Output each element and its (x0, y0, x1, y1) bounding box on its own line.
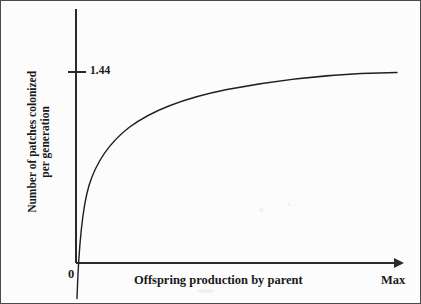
x-axis-title: Offspring production by parent (134, 273, 303, 287)
y-axis-title-line-2: per generation (39, 106, 51, 178)
scan-speck (197, 289, 215, 293)
scan-speck (287, 203, 291, 206)
x-axis-max-label: Max (381, 273, 405, 287)
scan-speck (259, 208, 264, 212)
y-axis-title: Number of patches colonizedper generatio… (26, 42, 52, 242)
y-axis-title-line-1: Number of patches colonized (26, 71, 38, 213)
chart-plot-area (1, 1, 421, 304)
figure-container: Number of patches colonizedper generatio… (0, 0, 421, 304)
x-axis-arrow-icon (394, 258, 404, 268)
data-curve-colonization (77, 73, 397, 299)
y-axis-tick-label: 1.44 (90, 64, 110, 77)
origin-label: 0 (68, 267, 74, 281)
